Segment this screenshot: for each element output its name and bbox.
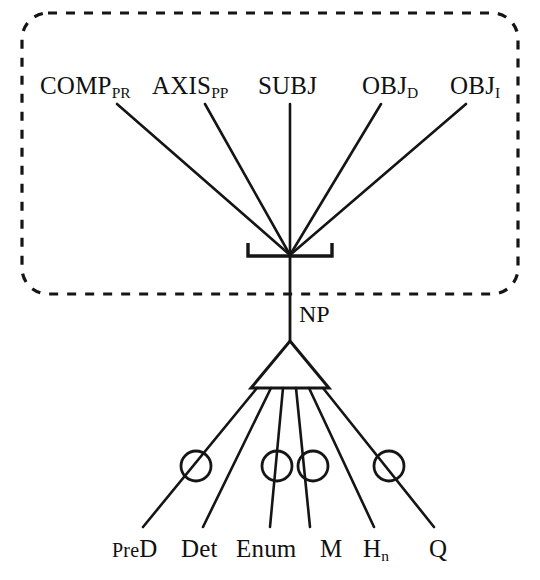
label-comp-pr-text: COMP: [40, 72, 112, 99]
edge-m: [296, 388, 310, 527]
optionality-circle-pred: [181, 451, 211, 481]
edge-axis-pp: [205, 104, 290, 255]
label-axis-pp-sub: PP: [211, 84, 228, 101]
label-comp-pr-sub: PR: [112, 84, 131, 101]
label-q-text: Q: [429, 535, 447, 562]
optionality-circle-q: [374, 451, 404, 481]
label-h-n: Hn: [363, 536, 389, 561]
label-pred-prefix: Pre: [112, 539, 139, 561]
label-np-text: NP: [299, 301, 330, 327]
label-np: NP: [299, 302, 330, 326]
label-pred: PreD: [112, 536, 158, 561]
label-obj-d: OBJD: [362, 73, 418, 98]
optionality-circle-m: [298, 451, 328, 481]
upper-edges: [117, 104, 466, 255]
label-pred-suffix: D: [139, 535, 157, 562]
argument-frame-box: [22, 13, 518, 294]
np-expansion-triangle: [251, 341, 329, 388]
edge-det: [203, 388, 271, 527]
label-subj: SUBJ: [258, 73, 317, 98]
label-axis-pp-text: AXIS: [152, 72, 211, 99]
edge-pred: [143, 388, 257, 527]
label-h-n-sub: n: [381, 547, 389, 564]
label-m: M: [320, 536, 342, 561]
label-h-n-text: H: [363, 535, 381, 562]
edge-q: [323, 388, 434, 527]
label-obj-d-text: OBJ: [362, 72, 407, 99]
label-subj-text: SUBJ: [258, 72, 317, 99]
label-enum-text: Enum: [236, 535, 297, 562]
optionality-circles: [181, 451, 404, 481]
label-comp-pr: COMPPR: [40, 73, 131, 98]
label-obj-d-sub: D: [407, 84, 418, 101]
label-enum: Enum: [236, 536, 297, 561]
label-q: Q: [429, 536, 447, 561]
edge-comp-pr: [117, 104, 290, 255]
label-det: Det: [181, 536, 218, 561]
label-axis-pp: AXISPP: [152, 73, 228, 98]
label-obj-i-text: OBJ: [450, 72, 495, 99]
label-obj-i-sub: I: [495, 84, 500, 101]
diagram-canvas: COMPPR AXISPP SUBJ OBJD OBJI NP PreD Det…: [0, 0, 540, 580]
edge-h-n: [309, 388, 374, 527]
label-m-text: M: [320, 535, 342, 562]
label-obj-i: OBJI: [450, 73, 500, 98]
edge-enum: [270, 388, 283, 527]
edge-obj-i: [290, 104, 466, 255]
label-det-text: Det: [181, 535, 218, 562]
edge-obj-d: [290, 104, 381, 255]
